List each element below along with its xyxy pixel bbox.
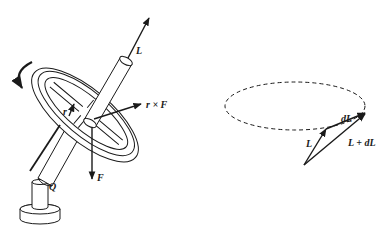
spin-arrow — [19, 62, 32, 88]
label-torque: r × F — [146, 100, 167, 110]
label-L: L — [136, 46, 142, 56]
gyroscope-diagram — [0, 0, 392, 232]
label-r: r — [63, 107, 67, 117]
label-Q: Q — [49, 182, 56, 192]
gyroscope — [18, 18, 153, 224]
label-dL: dL — [341, 114, 352, 124]
label-L-right: L — [306, 139, 312, 149]
label-L-plus-dL: L + dL — [348, 138, 376, 148]
label-F: F — [97, 173, 104, 183]
